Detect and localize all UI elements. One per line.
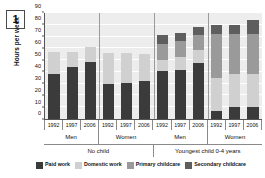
x-group-label-child: Youngest child 0-4 years xyxy=(154,145,263,157)
bar-slot xyxy=(117,13,135,119)
y-tick-label: 60 xyxy=(35,40,41,46)
bar-slot xyxy=(172,13,190,119)
x-group-label-child: No child xyxy=(44,145,154,157)
bar-slot xyxy=(244,13,262,119)
x-axis-year-row: 1992199720061992199720061992199720061992… xyxy=(44,120,262,130)
legend-swatch-icon xyxy=(127,162,134,169)
legend-item[interactable]: Primary childcare xyxy=(127,162,180,169)
y-tick-label: 80 xyxy=(35,17,41,23)
bar-segment xyxy=(157,35,168,43)
x-tick-year: 1997 xyxy=(226,120,244,130)
stacked-bar[interactable] xyxy=(193,27,204,119)
bar-slot xyxy=(135,13,153,119)
bar-slot xyxy=(208,13,226,119)
y-tick-label: 90 xyxy=(35,5,41,11)
y-tick-label: 0 xyxy=(38,112,41,118)
bar-segment xyxy=(247,74,258,106)
bar-slot xyxy=(99,13,117,119)
bar-slot xyxy=(63,13,81,119)
legend-item[interactable]: Paid work xyxy=(36,162,70,169)
bar-segment xyxy=(211,34,222,78)
group-divider xyxy=(208,13,209,119)
x-tick-year: 2006 xyxy=(244,120,261,130)
stacked-bar[interactable] xyxy=(121,53,132,119)
bar-segment xyxy=(247,20,258,34)
bar-segment xyxy=(85,62,96,119)
bar-segment xyxy=(175,41,186,57)
x-axis-child-group-row: No childYoungest child 0-4 years xyxy=(44,144,262,157)
plot-area xyxy=(44,13,262,120)
stacked-bar[interactable] xyxy=(175,33,186,119)
stacked-bar[interactable] xyxy=(211,25,222,119)
stacked-bar[interactable] xyxy=(247,20,258,119)
x-tick-year: 1992 xyxy=(208,120,226,130)
x-tick-year: 1992 xyxy=(45,120,63,130)
legend-swatch-icon xyxy=(75,162,82,169)
bar-segment xyxy=(211,111,222,119)
x-tick-year: 2006 xyxy=(135,120,153,130)
legend-label: Paid work xyxy=(45,162,70,167)
bar-segment xyxy=(48,52,59,74)
bar-segment xyxy=(103,53,114,84)
bar-slot xyxy=(45,13,63,119)
bar-segment xyxy=(229,25,240,34)
x-group-label-sex: Men xyxy=(44,130,99,144)
bar-segment xyxy=(139,54,150,80)
bar-segment xyxy=(175,70,186,119)
bar-slot xyxy=(81,13,99,119)
stacked-bar[interactable] xyxy=(157,35,168,119)
y-axis-ticks: 0102030405060708090 xyxy=(30,13,43,120)
legend-item[interactable]: Domestic work xyxy=(75,162,122,169)
stacked-bar[interactable] xyxy=(48,52,59,119)
x-tick-year: 1992 xyxy=(99,120,117,130)
y-tick-label: 30 xyxy=(35,76,41,82)
bar-segment xyxy=(247,34,258,75)
figure-container: 1 Hours per week 0102030405060708090 199… xyxy=(0,0,265,178)
legend-swatch-icon xyxy=(185,162,192,169)
bar-segment xyxy=(193,27,204,35)
stacked-bar[interactable] xyxy=(229,25,240,119)
stacked-bar[interactable] xyxy=(139,54,150,119)
y-tick-label: 70 xyxy=(35,28,41,34)
x-group-label-sex: Women xyxy=(208,130,262,144)
x-tick-year: 1992 xyxy=(153,120,171,130)
group-divider xyxy=(99,13,100,119)
bar-segment xyxy=(229,34,240,74)
bar-segment xyxy=(175,57,186,69)
bar-slot xyxy=(190,13,208,119)
x-tick-year: 1997 xyxy=(63,120,81,130)
chart-legend: Paid workDomestic workPrimary childcareS… xyxy=(36,160,261,170)
stacked-bar[interactable] xyxy=(103,53,114,119)
legend-label: Domestic work xyxy=(84,162,122,167)
legend-label: Secondary childcare xyxy=(194,162,246,167)
bar-segment xyxy=(193,63,204,119)
x-tick-year: 1997 xyxy=(172,120,190,130)
y-tick-label: 50 xyxy=(35,52,41,58)
bar-slot xyxy=(226,13,244,119)
bar-segment xyxy=(85,47,96,62)
y-tick-label: 20 xyxy=(35,88,41,94)
bar-segment xyxy=(229,74,240,107)
bar-segment xyxy=(121,53,132,82)
bar-segment xyxy=(229,107,240,119)
legend-item[interactable]: Secondary childcare xyxy=(185,162,246,169)
bar-segment xyxy=(67,67,78,119)
x-tick-year: 1997 xyxy=(117,120,135,130)
x-tick-year: 2006 xyxy=(81,120,99,130)
bar-segment xyxy=(211,78,222,111)
bar-segment xyxy=(211,25,222,34)
bar-segment xyxy=(157,71,168,119)
x-tick-year: 2006 xyxy=(190,120,208,130)
legend-label: Primary childcare xyxy=(136,162,180,167)
y-tick-label: 40 xyxy=(35,64,41,70)
group-divider xyxy=(154,13,155,119)
x-group-label-sex: Men xyxy=(153,130,208,144)
y-axis-title: Hours per week xyxy=(13,2,20,82)
bar-segment xyxy=(48,74,59,119)
x-axis-sex-row: MenWomenMenWomen xyxy=(44,130,262,144)
bar-segment xyxy=(103,84,114,119)
x-group-label-sex: Women xyxy=(99,130,153,144)
legend-swatch-icon xyxy=(36,162,43,169)
stacked-bar[interactable] xyxy=(85,47,96,119)
stacked-bar[interactable] xyxy=(67,52,78,119)
